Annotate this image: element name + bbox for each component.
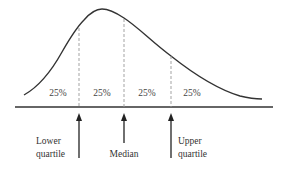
segment-3-label: 25% (138, 88, 156, 98)
lower-quartile-label-line1: Lower (36, 136, 62, 146)
lower-quartile-label-line2: quartile (36, 149, 65, 159)
lower-quartile-arrow (76, 113, 82, 158)
median-arrow (121, 113, 127, 143)
distribution-curve (24, 9, 262, 99)
median-label: Median (109, 149, 138, 159)
segment-2-label: 25% (93, 88, 111, 98)
quartile-diagram: 25% 25% 25% 25% Lower quartile Median Up… (0, 0, 285, 169)
upper-quartile-label-line1: Upper (178, 136, 203, 146)
segment-1-label: 25% (49, 88, 67, 98)
segment-4-label: 25% (183, 88, 201, 98)
upper-quartile-arrow (168, 113, 174, 158)
upper-quartile-label-line2: quartile (178, 149, 207, 159)
